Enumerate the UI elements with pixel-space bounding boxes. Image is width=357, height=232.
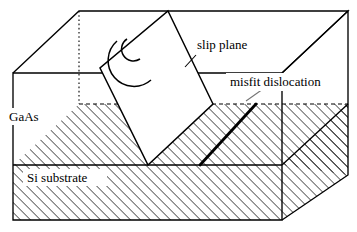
- figure-canvas: slip plane misfit dislocation GaAs Si su…: [0, 0, 357, 232]
- gaas-layer-label: GaAs: [8, 110, 40, 124]
- schematic-diagram-svg: [0, 0, 357, 232]
- slip-plane-label: slip plane: [196, 38, 248, 52]
- si-substrate-label: Si substrate: [26, 171, 88, 185]
- misfit-dislocation-label: misfit dislocation: [229, 75, 322, 89]
